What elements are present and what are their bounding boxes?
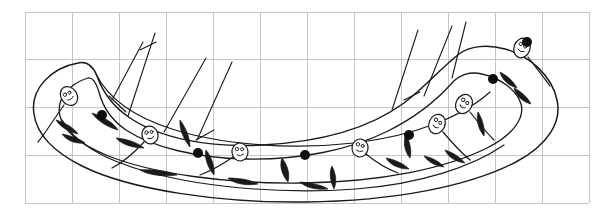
artifact-line-drawing [0, 0, 610, 219]
solid-dot [300, 150, 310, 160]
solid-dot [193, 148, 203, 158]
figure-root [0, 0, 610, 219]
solid-dot [404, 130, 414, 140]
solid-dot [488, 74, 498, 84]
solid-dot [522, 37, 532, 47]
canvas-background [0, 0, 610, 219]
solid-dot [97, 110, 107, 120]
